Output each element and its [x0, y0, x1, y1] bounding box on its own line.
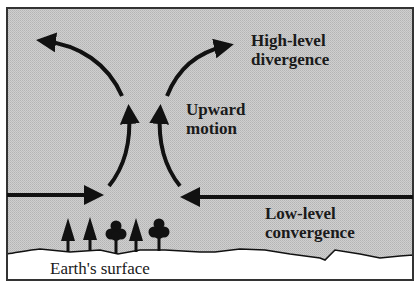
high-level-label-line1: High-level — [251, 31, 329, 50]
convergence-divergence-diagram: High-level divergence Upward motion Low-… — [0, 0, 419, 288]
low-level-label-line2: convergence — [265, 223, 355, 242]
low-level-convergence-label: Low-level convergence — [265, 204, 355, 242]
upward-motion-label: Upward motion — [186, 100, 246, 138]
earths-surface-label: Earth's surface — [50, 259, 150, 278]
low-level-label-line1: Low-level — [265, 204, 355, 223]
surface-label-text: Earth's surface — [50, 259, 150, 278]
diagram-canvas — [0, 0, 419, 288]
upward-label-line2: motion — [186, 119, 246, 138]
high-level-divergence-label: High-level divergence — [251, 31, 329, 69]
upward-label-line1: Upward — [186, 100, 246, 119]
high-level-label-line2: divergence — [251, 50, 329, 69]
